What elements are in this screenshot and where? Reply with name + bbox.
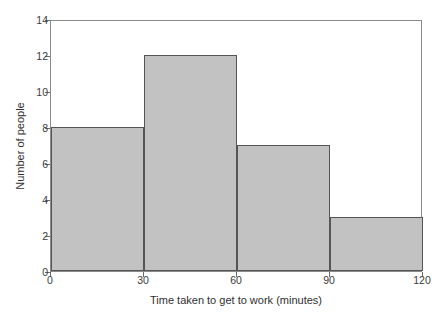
y-tick-label: 8 (42, 123, 48, 133)
x-tick-label: 90 (309, 275, 349, 286)
x-tick-label: 0 (30, 275, 70, 286)
histogram-bar (51, 127, 144, 271)
x-tick-label: 30 (123, 275, 163, 286)
y-tick-label: 14 (36, 15, 48, 25)
y-tick-label: 6 (42, 159, 48, 169)
histogram-bar (144, 55, 237, 271)
y-tick-label: 10 (36, 87, 48, 97)
histogram-bar (330, 217, 423, 271)
histogram-bar (237, 145, 330, 271)
x-tick-label: 60 (216, 275, 256, 286)
plot-area (50, 20, 422, 272)
y-tick-label: 2 (42, 231, 48, 241)
bars-layer (51, 21, 421, 271)
y-tick-label: 4 (42, 195, 48, 205)
x-axis-title: Time taken to get to work (minutes) (50, 294, 422, 306)
y-axis-title: Number of people (14, 20, 28, 272)
histogram-figure: Number of people 02468101214 0306090120 … (0, 0, 443, 319)
y-tick-label: 12 (36, 51, 48, 61)
x-tick-label: 120 (402, 275, 442, 286)
